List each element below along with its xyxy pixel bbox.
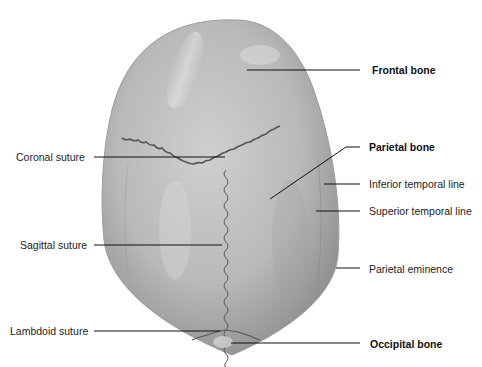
label-lambdoid-suture: Lambdoid suture [10, 325, 88, 337]
label-sagittal-suture: Sagittal suture [20, 239, 87, 251]
shadow [272, 180, 308, 300]
highlight [240, 45, 280, 65]
label-inferior-temporal-line: Inferior temporal line [369, 178, 465, 190]
label-coronal-suture: Coronal suture [16, 151, 85, 163]
highlight [159, 180, 191, 280]
skull-superior-view-figure: Coronal suture Sagittal suture Lambdoid … [0, 0, 482, 367]
occipital-highlight [213, 336, 233, 348]
label-superior-temporal-line: Superior temporal line [369, 205, 472, 217]
label-parietal-eminence: Parietal eminence [369, 263, 453, 275]
label-frontal-bone: Frontal bone [372, 64, 436, 76]
label-occipital-bone: Occipital bone [370, 338, 442, 350]
label-parietal-bone: Parietal bone [369, 141, 435, 153]
